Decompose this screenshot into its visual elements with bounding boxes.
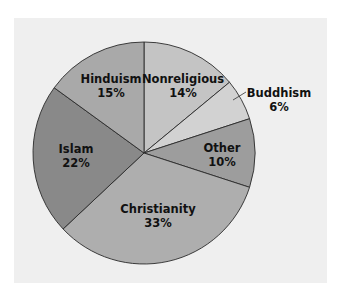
buddhism-pct: 6%: [269, 100, 289, 114]
nonreligious-label: Nonreligious: [142, 72, 224, 86]
buddhism-label: Buddhism: [247, 86, 311, 100]
hinduism-label: Hinduism: [81, 72, 142, 86]
christianity-pct: 33%: [144, 216, 172, 230]
other-pct: 10%: [208, 155, 236, 169]
pie-chart: Hinduism 15% Nonreligious 14% Buddhism 6…: [0, 0, 340, 301]
islam-label: Islam: [59, 142, 94, 156]
christianity-label: Christianity: [120, 202, 196, 216]
other-label: Other: [204, 141, 241, 155]
islam-pct: 22%: [62, 156, 90, 170]
hinduism-pct: 15%: [97, 86, 125, 100]
nonreligious-pct: 14%: [169, 86, 197, 100]
